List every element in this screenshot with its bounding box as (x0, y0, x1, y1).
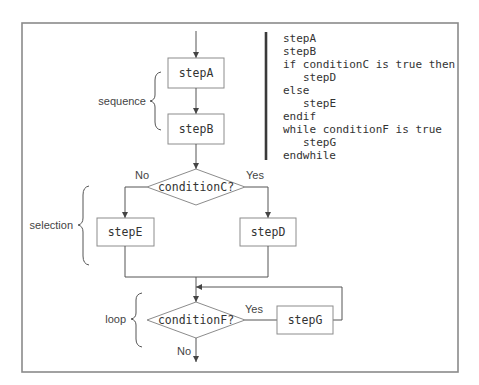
node-stepG: stepG (277, 306, 333, 334)
pseudocode-line: endwhile (283, 149, 336, 162)
node-stepE: stepE (97, 218, 154, 246)
node-conditionF-label: conditionF? (158, 313, 234, 327)
pseudocode-line: stepB (283, 45, 316, 58)
node-stepD-label: stepD (251, 225, 286, 239)
label-conditionF-yes: Yes (245, 303, 263, 315)
node-stepA-label: stepA (179, 66, 214, 80)
pseudocode-line: stepG (303, 136, 336, 149)
pseudocode-line: if conditionC is true then (283, 58, 455, 71)
label-conditionF-no: No (177, 345, 191, 357)
pseudocode-line: stepA (283, 32, 316, 45)
pseudocode-line: stepE (303, 97, 336, 110)
label-conditionC-yes: Yes (246, 169, 264, 181)
node-stepA: stepA (168, 58, 224, 88)
node-conditionC-label: conditionC? (158, 180, 234, 194)
group-label-loop: loop (105, 313, 126, 325)
flowchart-figure: stepA stepB conditionC? No Yes stepE ste (0, 0, 479, 385)
node-stepE-label: stepE (108, 225, 143, 239)
pseudocode-line: while conditionF is true (283, 123, 442, 136)
pseudocode-line: stepD (303, 71, 336, 84)
pseudocode-line: endif (283, 110, 316, 123)
group-label-sequence: sequence (98, 95, 146, 107)
node-stepB: stepB (168, 114, 224, 144)
pseudocode-line: else (283, 84, 310, 97)
node-stepD: stepD (240, 218, 296, 246)
node-stepB-label: stepB (179, 122, 214, 136)
group-label-selection: selection (30, 219, 73, 231)
node-stepG-label: stepG (288, 313, 323, 327)
label-conditionC-no: No (135, 169, 149, 181)
